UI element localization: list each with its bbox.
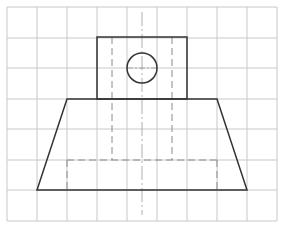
diagram-svg bbox=[0, 0, 286, 230]
center-lines bbox=[127, 12, 157, 215]
diagram-canvas bbox=[0, 0, 286, 230]
